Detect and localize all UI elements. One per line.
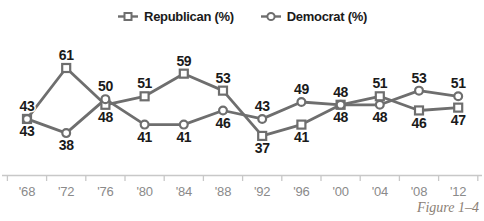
data-point-label: 48	[98, 109, 113, 125]
x-axis-label: '88	[215, 184, 231, 199]
republican-data-point-marker	[219, 87, 227, 95]
x-axis-label: '96	[293, 184, 309, 199]
x-axis-label: '12	[450, 184, 466, 199]
x-axis-label: '76	[97, 184, 113, 199]
data-point-label: 37	[255, 140, 270, 156]
democrat-data-point-marker	[258, 115, 266, 123]
democrat-data-point-marker	[62, 129, 70, 137]
x-axis-label: '68	[19, 184, 35, 199]
republican-line	[27, 68, 458, 136]
democrat-data-point-marker	[298, 98, 306, 106]
data-point-label: 53	[412, 70, 427, 86]
data-point-label: 41	[137, 129, 152, 145]
data-point-label: 51	[137, 75, 152, 91]
republican-data-point-marker	[180, 70, 188, 78]
data-point-label: 59	[176, 53, 191, 69]
x-axis-label: '72	[58, 184, 74, 199]
republican-data-point-marker	[297, 121, 305, 129]
republican-data-point-marker	[141, 92, 149, 100]
data-point-label: 61	[59, 47, 74, 63]
democrat-data-point-marker	[415, 87, 423, 95]
data-point-label: 51	[451, 75, 466, 91]
data-point-label: 41	[294, 129, 309, 145]
republican-data-point-marker	[62, 64, 70, 72]
republican-data-point-marker	[454, 104, 462, 112]
republican-data-point-marker	[258, 132, 266, 140]
democrat-data-point-marker	[141, 121, 149, 129]
republican-data-point-marker	[376, 92, 384, 100]
democrat-data-point-marker	[23, 115, 31, 123]
data-point-label: 51	[372, 75, 387, 91]
x-axis-label: '92	[254, 184, 270, 199]
x-axis-label: '00	[332, 184, 348, 199]
data-point-label: 48	[333, 109, 348, 125]
democrat-data-point-marker	[102, 95, 110, 103]
democrat-data-point-marker	[376, 101, 384, 109]
data-point-label: 43	[20, 98, 35, 114]
data-point-label: 47	[451, 112, 466, 128]
data-point-label: 48	[372, 109, 387, 125]
data-point-label: 53	[216, 70, 231, 86]
line-chart-plot-area: '68'72'76'80'84'88'92'96'00'04'08'124361…	[0, 0, 484, 221]
data-point-label: 49	[294, 81, 309, 97]
democrat-data-point-marker	[337, 101, 345, 109]
data-point-label: 43	[255, 98, 270, 114]
x-axis-label: '80	[136, 184, 152, 199]
figure-1-4-chart: Republican (%) Democrat (%) '68'72'76'80…	[0, 0, 484, 221]
data-point-label: 46	[412, 115, 427, 131]
x-axis-label: '04	[372, 184, 388, 199]
data-point-label: 41	[176, 129, 191, 145]
figure-caption: Figure 1–4	[417, 200, 479, 216]
data-point-label: 46	[216, 115, 231, 131]
x-axis-label: '84	[176, 184, 192, 199]
x-axis-label: '08	[411, 184, 427, 199]
democrat-data-point-marker	[454, 92, 462, 100]
data-point-label: 48	[333, 84, 348, 100]
data-point-label: 50	[98, 78, 113, 94]
data-point-label: 38	[59, 137, 74, 153]
democrat-data-point-marker	[180, 121, 188, 129]
democrat-data-point-marker	[219, 107, 227, 115]
data-point-label: 43	[20, 123, 35, 139]
republican-data-point-marker	[415, 106, 423, 114]
